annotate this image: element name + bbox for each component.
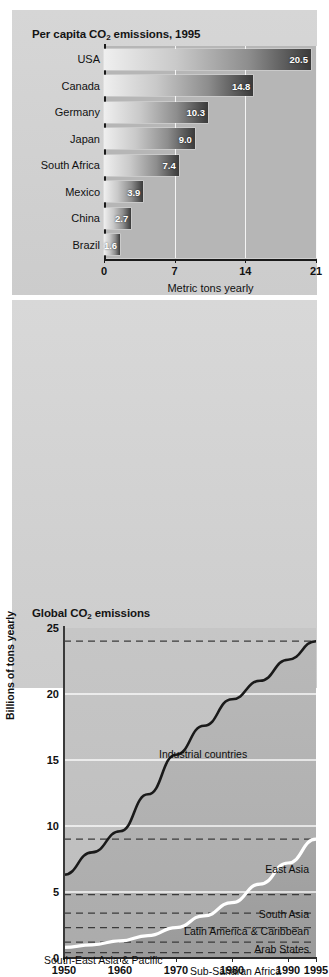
global-y-tick-label: 10 [47, 820, 59, 832]
per-capita-x-tick-label: 21 [310, 265, 322, 277]
per-capita-category-label: China [71, 212, 100, 224]
global-y-tick-label: 5 [53, 886, 59, 898]
per-capita-chart-title: Per capita CO2 emissions, 1995 [32, 28, 200, 40]
per-capita-chart-panel: Per capita CO2 emissions, 1995 20.514.81… [12, 10, 317, 295]
per-capita-title-pre: Per capita CO [32, 28, 106, 40]
per-capita-bar-row: 2.7 [104, 208, 131, 229]
global-y-axis-title: Billions of tons yearly [4, 611, 16, 720]
per-capita-bar-value: 14.8 [232, 80, 251, 91]
global-y-tick-label: 15 [47, 754, 59, 766]
per-capita-title-subscript: 2 [106, 33, 110, 42]
per-capita-x-tick [104, 259, 105, 263]
global-y-tick-label: 25 [47, 622, 59, 634]
per-capita-x-tick [175, 259, 176, 263]
region-label-south-asia: South Asia [259, 908, 309, 920]
global-x-tick [232, 958, 233, 962]
per-capita-bar-row: 7.4 [104, 155, 179, 176]
per-capita-bar-value: 1.6 [104, 239, 117, 250]
per-capita-title-post: emissions, 1995 [110, 28, 200, 40]
per-capita-bar-value: 2.7 [115, 213, 128, 224]
per-capita-bar-row: 20.5 [104, 49, 311, 70]
global-x-tick-label: 1970 [164, 964, 188, 976]
region-label-latin-america-caribbean: Latin America & Caribbean [184, 925, 309, 937]
global-x-tick [288, 958, 289, 962]
global-chart-panel: Global CO2 emissions Billions of tons ye… [12, 300, 317, 688]
per-capita-bar-row: 1.6 [104, 234, 120, 255]
per-capita-x-axis-line [104, 259, 317, 261]
per-capita-category-label: USA [77, 53, 100, 65]
global-x-tick [176, 958, 177, 962]
per-capita-bar-row: 9.0 [104, 128, 195, 149]
per-capita-bar-value: 3.9 [127, 186, 140, 197]
per-capita-bar [104, 49, 311, 70]
region-label-sub-saharan-africa: Sub-Saharan Africa [190, 965, 281, 977]
per-capita-category-label: Japan [70, 133, 100, 145]
global-y-axis-line [63, 626, 65, 960]
global-x-tick-label: 1995 [304, 964, 328, 976]
per-capita-bar-value: 20.5 [289, 54, 308, 65]
per-capita-category-label: Brazil [72, 239, 100, 251]
per-capita-bar-row: 3.9 [104, 181, 143, 202]
per-capita-bar-row: 10.3 [104, 102, 208, 123]
per-capita-x-axis-title: Metric tons yearly [104, 282, 317, 294]
per-capita-bar-value: 9.0 [179, 133, 192, 144]
per-capita-x-tick [316, 259, 317, 263]
global-x-tick [316, 958, 317, 962]
per-capita-x-tick-label: 14 [239, 265, 251, 277]
per-capita-bar-row: 14.8 [104, 75, 253, 96]
region-label-east-asia: East Asia [265, 863, 309, 875]
global-chart-title: Global CO2 emissions [32, 607, 150, 619]
per-capita-category-label: Mexico [65, 186, 100, 198]
region-label-arab-states: Arab States [254, 943, 309, 955]
global-y-tick-label: 20 [47, 688, 59, 700]
per-capita-bar-value: 10.3 [186, 107, 205, 118]
per-capita-category-label: Germany [55, 106, 100, 118]
per-capita-category-label: Canada [61, 80, 100, 92]
per-capita-x-tick-label: 0 [101, 265, 107, 277]
global-title-post: emissions [92, 607, 150, 619]
per-capita-x-tick-label: 7 [172, 265, 178, 277]
industrial-countries-label: Industrial countries [159, 748, 247, 760]
per-capita-category-label: South Africa [41, 159, 100, 171]
global-title-subscript: 2 [87, 612, 91, 621]
per-capita-bar-value: 7.4 [162, 160, 175, 171]
global-title-pre: Global CO [32, 607, 87, 619]
per-capita-gridline [316, 46, 317, 258]
per-capita-x-tick [245, 259, 246, 263]
region-label-south-east-asia-pacific: South-East Asia & Pacific [44, 954, 162, 966]
